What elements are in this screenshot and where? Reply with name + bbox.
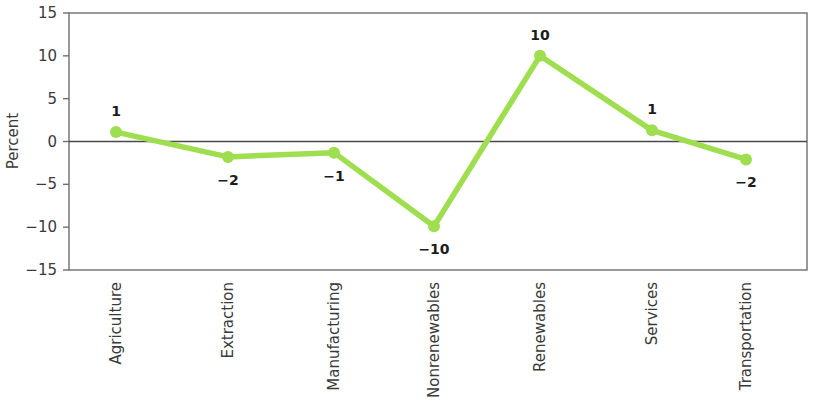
x-category-label: Manufacturing xyxy=(325,282,343,391)
y-tick-label: 10 xyxy=(38,47,57,65)
y-axis-tick-labels: 151050−5−10−15 xyxy=(25,4,57,279)
x-category-label: Transportation xyxy=(737,282,755,391)
data-point-marker[interactable] xyxy=(222,151,234,163)
y-axis-tick-marks xyxy=(63,13,69,270)
line-chart: 151050−5−10−15 Percent 1−2−1−10101−2 Agr… xyxy=(0,0,816,420)
data-value-label: −2 xyxy=(735,174,756,190)
data-point-marker[interactable] xyxy=(534,50,546,62)
y-tick-label: 5 xyxy=(47,90,57,108)
data-value-label: 1 xyxy=(647,101,657,117)
data-value-label: −1 xyxy=(323,168,344,184)
y-tick-label: 0 xyxy=(47,133,57,151)
data-point-marker[interactable] xyxy=(740,153,752,165)
data-point-marker[interactable] xyxy=(646,124,658,136)
data-point-marker[interactable] xyxy=(428,220,440,232)
data-point-marker[interactable] xyxy=(110,126,122,138)
x-category-label: Renewables xyxy=(531,282,549,372)
x-category-label: Extraction xyxy=(219,282,237,359)
data-point-marker[interactable] xyxy=(328,147,340,159)
x-category-label: Services xyxy=(643,282,661,345)
y-axis-title: Percent xyxy=(4,113,22,170)
x-category-label: Nonrenewables xyxy=(425,282,443,398)
y-tick-label: −15 xyxy=(25,261,57,279)
chart-canvas: 151050−5−10−15 Percent 1−2−1−10101−2 Agr… xyxy=(0,0,816,420)
data-value-label: −2 xyxy=(217,172,238,188)
data-value-label: 10 xyxy=(530,27,550,43)
y-tick-label: 15 xyxy=(38,4,57,22)
y-tick-label: −10 xyxy=(25,218,57,236)
data-value-label: 1 xyxy=(111,103,121,119)
x-axis-category-labels: AgricultureExtractionManufacturingNonren… xyxy=(107,282,755,398)
data-value-label: −10 xyxy=(418,241,449,257)
x-category-label: Agriculture xyxy=(107,282,125,365)
y-tick-label: −5 xyxy=(35,175,57,193)
